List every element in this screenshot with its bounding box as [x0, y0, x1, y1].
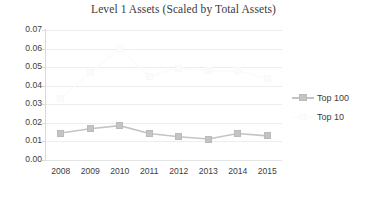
- y-axis-tick-label: 0.06: [14, 44, 42, 53]
- data-point-marker: [87, 125, 94, 132]
- y-axis-tick-mark: [42, 86, 46, 87]
- y-axis-tick-label: 0.01: [14, 136, 42, 145]
- data-point-marker: [116, 122, 123, 129]
- data-point-marker: [146, 130, 153, 137]
- legend-square-marker-icon: [299, 113, 307, 120]
- data-point-marker: [264, 132, 271, 139]
- x-axis-tick-label: 2015: [250, 166, 284, 176]
- plot-area: [46, 30, 282, 160]
- legend-item-top10[interactable]: Top 10: [292, 107, 367, 126]
- y-axis-tick-label: 0.00: [14, 155, 42, 164]
- y-axis-tick-label: 0.02: [14, 118, 42, 127]
- data-point-marker: [146, 73, 153, 80]
- data-point-marker: [57, 130, 64, 137]
- y-axis-tick-mark: [42, 49, 46, 50]
- y-axis-tick-label: 0.04: [14, 81, 42, 90]
- data-point-marker: [234, 67, 241, 74]
- data-point-marker: [87, 69, 94, 76]
- legend-swatch-top10: [292, 112, 314, 121]
- y-axis-tick-mark: [42, 67, 46, 68]
- y-axis-tick-mark: [42, 104, 46, 105]
- legend-label-top10: Top 10: [317, 112, 344, 122]
- data-point-marker: [57, 95, 64, 102]
- y-axis-tick-label: 0.07: [14, 25, 42, 34]
- y-axis-tick-label: 0.03: [14, 99, 42, 108]
- y-axis-tick-mark: [42, 141, 46, 142]
- data-point-marker: [205, 67, 212, 74]
- data-point-marker: [175, 133, 182, 140]
- gridline: [46, 160, 282, 161]
- legend-item-top100[interactable]: Top 100: [292, 88, 367, 107]
- legend-label-top100: Top 100: [317, 93, 349, 103]
- chart-title: Level 1 Assets (Scaled by Total Assets): [0, 3, 367, 15]
- legend-square-marker-icon: [299, 94, 307, 101]
- y-axis-tick-label: 0.05: [14, 62, 42, 71]
- data-point-marker: [175, 65, 182, 72]
- data-point-marker: [264, 75, 271, 82]
- data-point-marker: [234, 130, 241, 137]
- y-axis-tick-mark: [42, 30, 46, 31]
- y-axis-tick-labels: 0.070.060.050.040.030.020.010.00: [10, 0, 42, 202]
- data-point-marker: [205, 136, 212, 143]
- x-axis-tick-labels: 20082009201020112012201320142015: [46, 166, 282, 180]
- chart-container: Level 1 Assets (Scaled by Total Assets) …: [0, 0, 367, 202]
- y-axis-tick-mark: [42, 160, 46, 161]
- data-point-marker: [116, 45, 123, 52]
- chart-legend: Top 100 Top 10: [292, 88, 367, 126]
- y-axis-tick-mark: [42, 123, 46, 124]
- series-lines: [46, 30, 282, 160]
- legend-swatch-top100: [292, 93, 314, 102]
